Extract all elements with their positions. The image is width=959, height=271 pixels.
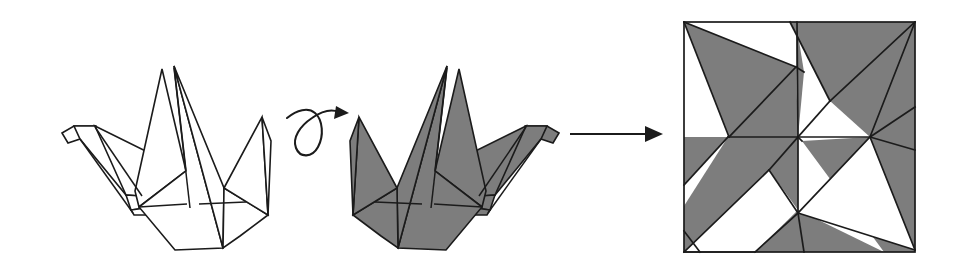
turn-over-arrow-loop [287,110,339,156]
unfold-arrow-head [645,126,663,142]
diagram-canvas [0,0,959,271]
turn-over-arrow-head [334,106,349,119]
step-1-crane-white [62,66,271,250]
turn-over-arrow [287,106,349,155]
origami-diagram-figure: Origami crane folding sequence [0,0,959,271]
step-3-crease-pattern [684,22,915,252]
unfold-arrow [570,126,663,142]
step-2-crane-gray [350,66,559,250]
